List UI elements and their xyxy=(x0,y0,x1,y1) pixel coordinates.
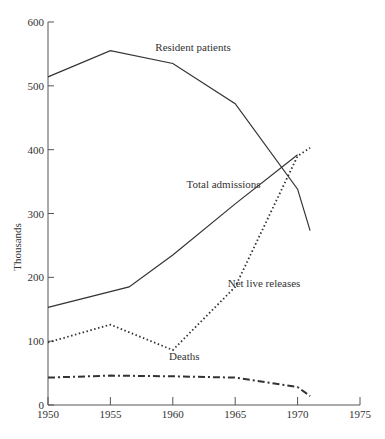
series-label: Resident patients xyxy=(155,41,230,53)
series-label: Total admissions xyxy=(187,178,261,190)
x-tick-label: 1970 xyxy=(287,408,310,420)
series-lines xyxy=(48,51,310,396)
line-chart: 1950195519601965197019750100200300400500… xyxy=(0,0,385,439)
series-label: Net live releases xyxy=(228,277,301,289)
series-deaths xyxy=(48,376,310,397)
series-label: Deaths xyxy=(169,350,200,362)
x-tick-label: 1955 xyxy=(99,408,122,420)
y-tick-label: 200 xyxy=(28,271,45,283)
x-tick-label: 1975 xyxy=(349,408,372,420)
series-resident-patients xyxy=(48,51,310,231)
axes xyxy=(48,22,360,405)
y-tick-label: 100 xyxy=(28,335,45,347)
y-tick-label: 600 xyxy=(28,16,45,28)
series-net-live-releases xyxy=(48,148,310,350)
series-labels: Resident patientsTotal admissionsNet liv… xyxy=(155,41,300,363)
y-axis-label: Thousands xyxy=(11,223,23,271)
x-tick-label: 1960 xyxy=(162,408,185,420)
y-tick-label: 400 xyxy=(28,144,45,156)
y-tick-label: 0 xyxy=(39,399,45,411)
y-tick-label: 300 xyxy=(28,208,45,220)
x-tick-label: 1965 xyxy=(224,408,247,420)
y-tick-label: 500 xyxy=(28,80,45,92)
